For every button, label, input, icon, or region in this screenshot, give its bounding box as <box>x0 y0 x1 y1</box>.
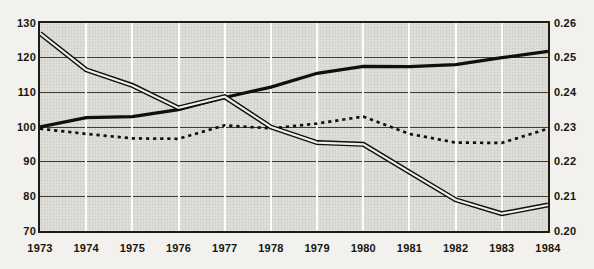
right-axis-tick-label: 0.25 <box>554 51 592 64</box>
rising-solid-line <box>40 51 548 127</box>
right-axis-tick-label: 0.20 <box>554 225 592 238</box>
x-axis-tick-label: 1978 <box>249 242 293 255</box>
line-chart-figure: Nine small European countriesb 130120110… <box>0 0 594 269</box>
right-axis-tick-label: 0.21 <box>554 190 592 203</box>
x-axis-tick-label: 1984 <box>526 242 570 255</box>
left-axis-tick-label: 110 <box>6 86 36 99</box>
right-axis-tick-label: 0.24 <box>554 86 592 99</box>
left-axis-tick-label: 70 <box>6 225 36 238</box>
x-axis-tick-label: 1980 <box>341 242 385 255</box>
right-axis-tick-label: 0.26 <box>554 17 592 30</box>
right-axis-tick-label: 0.23 <box>554 121 592 134</box>
left-axis-tick-label: 120 <box>6 51 36 64</box>
x-axis-tick-label: 1973 <box>18 242 62 255</box>
x-axis-tick-label: 1975 <box>110 242 154 255</box>
x-axis-tick-label: 1974 <box>64 242 108 255</box>
x-axis-tick-label: 1982 <box>434 242 478 255</box>
x-axis-tick-label: 1983 <box>480 242 524 255</box>
x-axis-tick-label: 1977 <box>203 242 247 255</box>
left-axis-tick-label: 100 <box>6 121 36 134</box>
dotted-line <box>40 117 548 143</box>
declining-double-line <box>40 33 548 213</box>
x-axis-tick-label: 1976 <box>157 242 201 255</box>
left-axis-tick-label: 80 <box>6 190 36 203</box>
left-axis-tick-label: 90 <box>6 155 36 168</box>
x-axis-tick-label: 1981 <box>387 242 431 255</box>
plot-area <box>38 21 550 233</box>
left-axis-tick-label: 130 <box>6 17 36 30</box>
right-axis-tick-label: 0.22 <box>554 155 592 168</box>
chart-lines <box>40 23 548 231</box>
x-axis-tick-label: 1979 <box>295 242 339 255</box>
